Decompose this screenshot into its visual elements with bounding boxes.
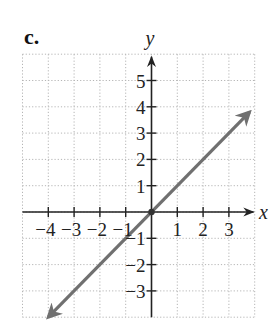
x-tick-label: 1 xyxy=(173,219,183,240)
y-tick-label: 4 xyxy=(136,97,146,118)
y-tick-label: 1 xyxy=(136,176,146,197)
x-tick-label: −2 xyxy=(87,219,107,240)
data-series xyxy=(48,112,249,317)
x-tick-label: −3 xyxy=(61,219,81,240)
x-axis-label: x xyxy=(258,201,268,223)
x-tick-label: −4 xyxy=(35,219,56,240)
y-tick-label: 3 xyxy=(136,123,146,144)
y-tick-label: −2 xyxy=(125,255,145,276)
y-tick-label: −1 xyxy=(125,228,145,249)
y-axis-label: y xyxy=(144,27,155,50)
x-tick-label: 3 xyxy=(224,219,234,240)
x-tick-label: 2 xyxy=(198,219,208,240)
y-tick-label: 5 xyxy=(136,71,146,92)
y-tick-label: −3 xyxy=(125,281,145,302)
line-y-equals-x xyxy=(48,112,249,317)
origin-point xyxy=(148,209,154,215)
coordinate-plane: −4−3−2−112354321−1−2−3xy xyxy=(0,0,280,336)
y-tick-label: 2 xyxy=(136,149,146,170)
